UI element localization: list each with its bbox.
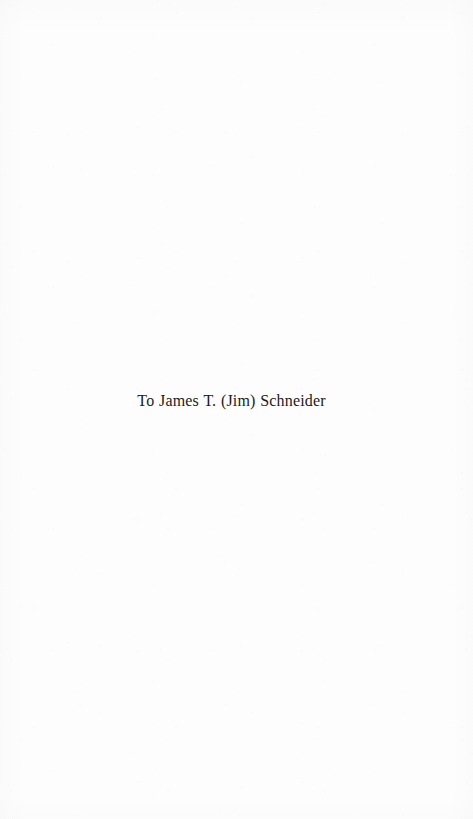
dedication-block: To James T. (Jim) Schneider xyxy=(0,391,473,411)
dedication-page: To James T. (Jim) Schneider xyxy=(0,0,473,819)
dedication-text: To James T. (Jim) Schneider xyxy=(137,391,325,411)
